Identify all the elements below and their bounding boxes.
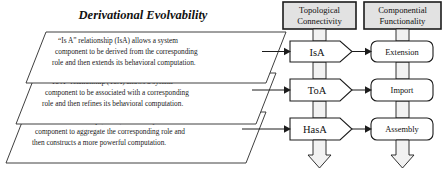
node-isa: IsA — [290, 41, 352, 62]
figure-title: Derivational Evolvability — [78, 8, 208, 22]
isa-panel: “Is A” relationship (IsA) allows a syste… — [26, 32, 286, 83]
node-hasa-label: HasA — [303, 124, 327, 135]
toa-panel-line-3: role and then refines its behavioral com… — [42, 99, 183, 108]
figure-canvas: Derivational Evolvability “Has A” relati… — [0, 0, 445, 172]
topological-connectivity-header-line-1: Topological — [299, 5, 341, 15]
hasa-to-assembly — [352, 125, 372, 132]
componential-functionality-header-line-2: Functionality — [380, 16, 427, 26]
toa-to-import — [352, 86, 372, 93]
functionality-connector-extension-to-import — [396, 62, 409, 79]
node-import: Import — [371, 79, 433, 101]
topological-connectivity-header: Topological Connectivity — [283, 2, 356, 29]
node-extension-label: Extension — [385, 48, 419, 57]
isa-panel-line-3: role and then extends its behavioral com… — [52, 58, 196, 67]
functionality-connector-header-to-extension — [396, 29, 409, 41]
connectivity-flow-down-arrow — [308, 140, 331, 168]
connectivity-connector-header-to-isa — [313, 29, 326, 41]
node-toa: ToA — [290, 79, 352, 101]
node-toa-label: ToA — [308, 85, 327, 96]
node-hasa: HasA — [290, 118, 352, 140]
diagram-svg: Derivational Evolvability “Has A” relati… — [0, 0, 445, 172]
node-import-label: Import — [391, 86, 414, 95]
functionality-connector-import-to-assembly — [396, 101, 409, 118]
componential-functionality-header: Componential Functionality — [364, 2, 441, 29]
hasa-panel-line-2: component to aggregate the corresponding… — [35, 127, 185, 136]
isa-to-extension — [352, 48, 372, 55]
node-assembly-label: Assembly — [385, 125, 419, 134]
topological-connectivity-header-line-2: Connectivity — [297, 16, 342, 26]
node-isa-label: IsA — [309, 47, 325, 58]
connectivity-connector-toa-to-hasa — [313, 101, 326, 118]
node-extension: Extension — [371, 41, 433, 62]
componential-functionality-header-line-1: Componential — [378, 5, 427, 15]
node-assembly: Assembly — [371, 118, 433, 140]
isa-panel-line-2: component to be derived from the corresp… — [55, 47, 198, 56]
functionality-flow-down-arrow — [391, 140, 414, 168]
isa-panel-line-1: “Is A” relationship (IsA) allows a syste… — [58, 36, 178, 45]
hasa-panel-line-3: then constructs a more powerful computat… — [32, 138, 166, 147]
toa-panel-line-2: component to be associated with a corres… — [45, 88, 189, 97]
connectivity-connector-isa-to-toa — [313, 62, 326, 79]
